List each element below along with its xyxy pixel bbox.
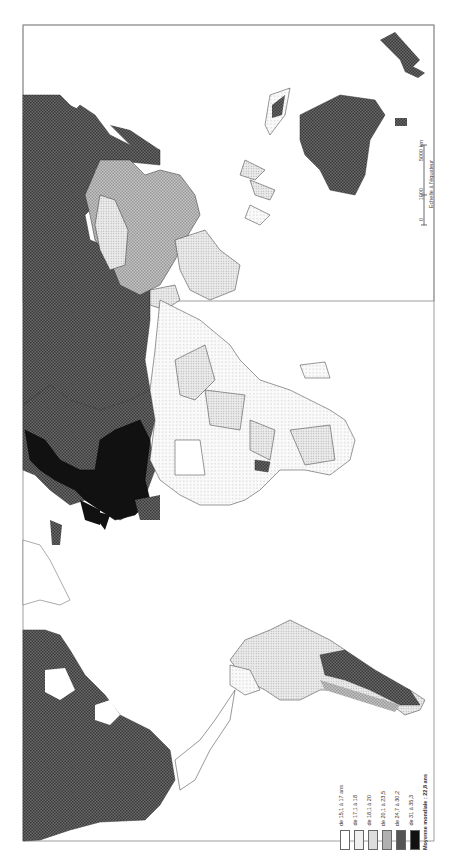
scale-tick-5000: 5000 km: [418, 140, 424, 161]
scale-caption: Echelle à l'équateur: [428, 160, 434, 208]
legend-world-average: Moyenne mondiale : 22,8 ans: [422, 762, 436, 850]
legend-swatch: [410, 830, 420, 850]
legend-class-5: de 24,7 à 30,2: [394, 762, 408, 850]
legend-class-4: de 20,1 à 23,5: [380, 762, 394, 850]
legend-swatch: [396, 830, 406, 850]
legend-class-2: de 17,1 à 18: [352, 762, 366, 850]
region-north-america: [23, 630, 175, 841]
scale-bar: 0 1000 5000 km Echelle à l'équateur: [418, 140, 438, 230]
legend-swatch: [368, 830, 378, 850]
world-map: [0, 0, 457, 867]
scale-tick-0: 0: [418, 218, 424, 221]
legend-class-1: de 15,1 à 17 ans: [338, 762, 352, 850]
legend-swatch: [354, 830, 364, 850]
legend-swatch: [382, 830, 392, 850]
region-australia: [300, 95, 385, 195]
legend-class-3: de 18,1 à 20: [366, 762, 380, 850]
legend: de 15,1 à 17 ans de 17,1 à 18 de 18,1 à …: [338, 762, 434, 862]
scale-tick-1000: 1000: [418, 188, 424, 200]
legend-class-6: de 31 à 35,3: [408, 762, 422, 850]
legend-swatch: [340, 830, 350, 850]
